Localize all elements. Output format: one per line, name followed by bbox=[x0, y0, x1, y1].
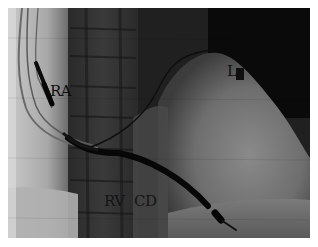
xray-graphic bbox=[8, 8, 310, 238]
label-ra: RA bbox=[50, 84, 71, 99]
xray-image: RA L RV CD bbox=[8, 8, 310, 238]
label-l: L bbox=[227, 64, 236, 79]
label-rv: RV bbox=[104, 194, 125, 209]
label-cd: CD bbox=[134, 194, 157, 209]
